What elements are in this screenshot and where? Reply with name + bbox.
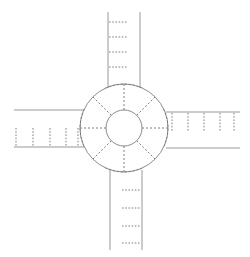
spoke-315-southeast — [137, 141, 155, 159]
roundabout-svg-canvas — [0, 0, 250, 257]
spoke-45-northeast — [137, 97, 155, 115]
road-edges-group — [14, 12, 240, 250]
roundabout-diagram — [0, 0, 250, 257]
east-arm-lane-ticks — [172, 113, 234, 131]
radial-spokes-group — [80, 84, 168, 172]
south-arm-lane-ticks — [122, 190, 141, 243]
north-arm-lane-ticks — [109, 22, 128, 67]
inner-island-circle — [106, 110, 142, 146]
spoke-225-southwest — [93, 141, 111, 159]
west-arm-lane-ticks — [16, 128, 78, 146]
spoke-135-northwest — [93, 97, 111, 115]
